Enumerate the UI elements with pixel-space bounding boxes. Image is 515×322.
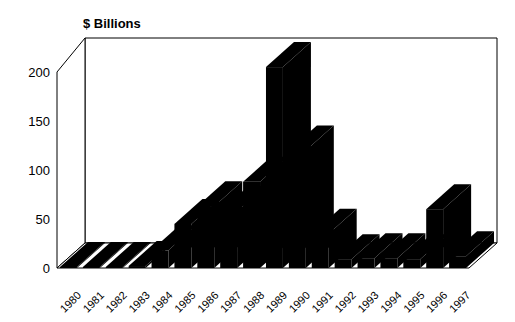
bar-chart-3d: 200 150 100 50 0 $ Billions 198019811982…: [0, 0, 515, 322]
x-tick-label-1987: 1987: [218, 289, 244, 315]
x-tick-label-1985: 1985: [172, 289, 198, 315]
y-axis-ticks: 200 150 100 50 0: [28, 65, 50, 276]
chart-title: $ Billions: [83, 16, 141, 31]
x-tick-label-1994: 1994: [378, 289, 404, 315]
y-tick-label-50: 50: [36, 212, 50, 227]
x-tick-label-1995: 1995: [401, 289, 427, 315]
x-tick-label-1986: 1986: [195, 289, 221, 315]
x-axis-ticks: 1980198119821983198419851986198719881989…: [58, 289, 473, 315]
x-tick-label-1983: 1983: [126, 289, 152, 315]
y-tick-label-200: 200: [28, 65, 50, 80]
chart-left-wall: [57, 38, 85, 268]
y-tick-label-0: 0: [43, 261, 50, 276]
x-tick-label-1981: 1981: [80, 289, 106, 315]
x-tick-label-1989: 1989: [264, 289, 290, 315]
x-tick-label-1982: 1982: [103, 289, 129, 315]
x-tick-label-1996: 1996: [424, 289, 450, 315]
y-tick-label-100: 100: [28, 163, 50, 178]
x-tick-label-1992: 1992: [332, 289, 358, 315]
x-tick-label-1991: 1991: [309, 289, 335, 315]
x-tick-label-1980: 1980: [58, 289, 84, 315]
y-tick-label-150: 150: [28, 114, 50, 129]
x-tick-label-1997: 1997: [447, 289, 473, 315]
chart-container: 200 150 100 50 0 $ Billions 198019811982…: [0, 0, 515, 322]
x-tick-label-1988: 1988: [241, 289, 267, 315]
x-tick-label-1984: 1984: [149, 289, 175, 315]
x-tick-label-1990: 1990: [286, 289, 312, 315]
x-tick-label-1993: 1993: [355, 289, 381, 315]
